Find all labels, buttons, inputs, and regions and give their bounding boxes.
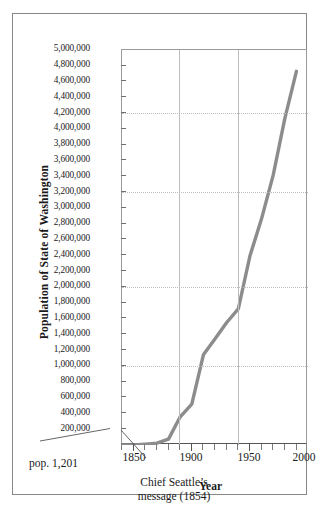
y-tick-3600000 xyxy=(121,159,126,160)
y-axis-label-2600000: 2,600,000 xyxy=(12,234,90,243)
population-line-series xyxy=(122,50,308,445)
y-axis-label-2800000: 2,800,000 xyxy=(12,218,90,227)
y-tick-1000000 xyxy=(121,365,126,366)
annotation-start-population: pop. 1,201 xyxy=(29,457,78,469)
y-axis-label-600000: 600,000 xyxy=(12,392,90,401)
y-axis-label-2000000: 2,000,000 xyxy=(12,281,90,290)
y-axis-label-200000: 200,000 xyxy=(12,424,90,433)
x-axis-label-1950: 1950 xyxy=(238,451,261,463)
y-axis-label-1000000: 1,000,000 xyxy=(12,360,90,369)
y-axis-title: Population of State of Washington xyxy=(38,137,50,367)
x-tick-1900 xyxy=(191,444,192,451)
y-tick-4000000 xyxy=(121,128,126,129)
x-tick-1940 xyxy=(237,444,238,450)
gridline-horizontal-4200000 xyxy=(122,113,308,114)
x-tick-1930 xyxy=(226,444,227,450)
y-axis-label-3200000: 3,200,000 xyxy=(12,187,90,196)
y-tick-400000 xyxy=(121,412,126,413)
y-tick-1200000 xyxy=(121,349,126,350)
x-tick-1880 xyxy=(168,444,169,450)
annotation-chief-seattle: Chief Seattle’s message (1854) xyxy=(109,475,239,503)
y-axis-label-3800000: 3,800,000 xyxy=(12,139,90,148)
y-tick-4800000 xyxy=(121,65,126,66)
y-axis-label-2200000: 2,200,000 xyxy=(12,266,90,275)
y-axis-label-400000: 400,000 xyxy=(12,408,90,417)
y-axis-label-4800000: 4,800,000 xyxy=(12,60,90,69)
x-tick-1850 xyxy=(133,444,134,451)
x-tick-1980 xyxy=(284,444,285,450)
y-tick-4400000 xyxy=(121,96,126,97)
y-tick-2200000 xyxy=(121,270,126,271)
y-axis-label-4600000: 4,600,000 xyxy=(12,76,90,85)
x-tick-1840 xyxy=(121,444,122,450)
figure-frame: 5,000,000 4,800,000 4,600,000 4,400,000 … xyxy=(12,13,307,495)
y-axis-label-1600000: 1,600,000 xyxy=(12,313,90,322)
x-axis-label-1900: 1900 xyxy=(180,451,203,463)
y-axis-label-1800000: 1,800,000 xyxy=(12,297,90,306)
y-tick-1400000 xyxy=(121,333,126,334)
y-axis-label-4200000: 4,200,000 xyxy=(12,108,90,117)
x-tick-1990 xyxy=(296,444,297,450)
x-tick-1890 xyxy=(179,444,180,450)
y-axis-label-3000000: 3,000,000 xyxy=(12,202,90,211)
y-axis-label-4400000: 4,400,000 xyxy=(12,92,90,101)
y-tick-4200000 xyxy=(121,112,126,113)
y-tick-800000 xyxy=(121,381,126,382)
y-tick-3800000 xyxy=(121,144,126,145)
y-tick-1800000 xyxy=(121,302,126,303)
x-tick-1960 xyxy=(261,444,262,450)
x-tick-1870 xyxy=(156,444,157,450)
y-tick-2800000 xyxy=(121,223,126,224)
x-axis-label-1850: 1850 xyxy=(123,451,146,463)
y-tick-3200000 xyxy=(121,191,126,192)
y-tick-200000 xyxy=(121,428,126,429)
y-axis-label-3600000: 3,600,000 xyxy=(12,155,90,164)
y-tick-1600000 xyxy=(121,317,126,318)
y-axis-label-3400000: 3,400,000 xyxy=(12,171,90,180)
gridline-vertical-1900 xyxy=(179,50,180,445)
gridline-vertical-1950 xyxy=(238,50,239,445)
y-axis-label-1200000: 1,200,000 xyxy=(12,345,90,354)
y-axis-label-5000000: 5,000,000 xyxy=(12,44,90,53)
gridline-horizontal-3200000 xyxy=(122,192,308,193)
x-tick-1970 xyxy=(272,444,273,450)
y-axis-label-2400000: 2,400,000 xyxy=(12,250,90,259)
y-tick-2600000 xyxy=(121,238,126,239)
y-axis-label-1400000: 1,400,000 xyxy=(12,329,90,338)
x-axis-label-2000: 2000 xyxy=(293,451,316,463)
y-tick-2000000 xyxy=(121,286,126,287)
y-tick-3000000 xyxy=(121,207,126,208)
y-axis-label-800000: 800,000 xyxy=(12,376,90,385)
gridline-horizontal-1000000 xyxy=(122,366,308,367)
x-tick-1920 xyxy=(214,444,215,450)
x-tick-1860 xyxy=(144,444,145,450)
x-tick-1910 xyxy=(202,444,203,450)
x-tick-1950 xyxy=(249,444,250,451)
y-axis-label-4000000: 4,000,000 xyxy=(12,123,90,132)
y-tick-2400000 xyxy=(121,254,126,255)
plot-area xyxy=(121,49,307,444)
y-tick-600000 xyxy=(121,396,126,397)
y-tick-4600000 xyxy=(121,80,126,81)
annotation-chief-seattle-line1: Chief Seattle’s xyxy=(140,476,207,488)
y-tick-3400000 xyxy=(121,175,126,176)
gridline-horizontal-2000000 xyxy=(122,287,308,288)
annotation-chief-seattle-line2: message (1854) xyxy=(138,490,211,502)
